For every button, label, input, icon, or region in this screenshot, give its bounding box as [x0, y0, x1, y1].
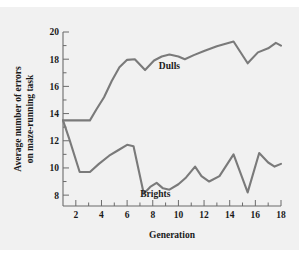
- y-tick-label: 12: [50, 136, 60, 146]
- y-tick-label: 8: [54, 191, 59, 201]
- series-label-brights: Brights: [140, 189, 170, 199]
- series-line-brights: [63, 120, 281, 193]
- x-tick-label: 12: [199, 210, 209, 220]
- x-axis-ticks: [76, 200, 281, 206]
- line-chart: 8101214161820 24681012141618 DullsBright…: [0, 7, 299, 250]
- y-tick-label: 10: [50, 163, 60, 173]
- x-tick-label: 18: [276, 210, 286, 220]
- x-tick-label: 6: [125, 210, 130, 220]
- y-axis-title-line1: Average number of errors: [13, 66, 23, 172]
- y-tick-label: 16: [50, 82, 60, 92]
- y-tick-label: 14: [50, 109, 60, 119]
- series-line-dulls: [63, 42, 281, 121]
- y-axis-title-line2: on maze-running task: [25, 74, 35, 163]
- y-tick-label: 18: [50, 55, 60, 65]
- axes: [63, 32, 281, 206]
- x-axis-tick-labels: 24681012141618: [73, 210, 286, 220]
- x-tick-label: 2: [73, 210, 78, 220]
- figure-panel: 8101214161820 24681012141618 DullsBright…: [0, 7, 299, 250]
- y-axis-tick-labels: 8101214161820: [50, 27, 60, 200]
- x-tick-label: 16: [251, 210, 261, 220]
- x-tick-label: 14: [225, 210, 235, 220]
- x-tick-label: 8: [150, 210, 155, 220]
- chart-plot-area: 8101214161820 24681012141618 DullsBright…: [0, 7, 299, 250]
- series-annotations: DullsBrights: [140, 61, 180, 199]
- y-axis-ticks: [63, 32, 69, 195]
- y-tick-label: 20: [50, 27, 60, 37]
- series-label-dulls: Dulls: [159, 61, 180, 71]
- x-axis-title: Generation: [149, 230, 196, 240]
- x-tick-label: 4: [99, 210, 104, 220]
- x-tick-label: 10: [174, 210, 184, 220]
